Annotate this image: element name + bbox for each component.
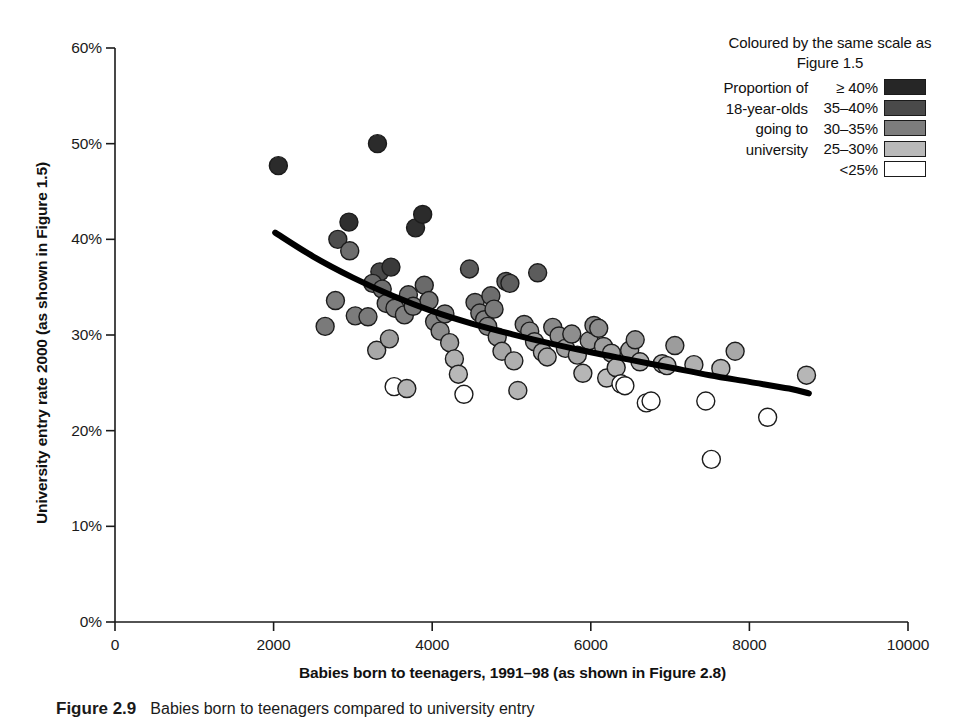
scatter-point: [382, 258, 400, 276]
legend-item-swatch: [884, 141, 926, 157]
scatter-point: [563, 325, 581, 343]
scatter-point: [529, 264, 547, 282]
y-axis-title: University entry rate 2000 (as shown in …: [33, 63, 51, 623]
scatter-point: [368, 135, 386, 153]
figure-caption-text: Babies born to teenagers compared to uni…: [136, 700, 534, 717]
scatter-point: [455, 385, 473, 403]
x-axis-tick-label: 0: [111, 636, 120, 654]
legend-item-label: 30–35%: [816, 120, 884, 137]
x-axis-ticks: [115, 622, 908, 631]
scatter-point: [340, 213, 358, 231]
scatter-point: [501, 274, 519, 292]
scatter-point: [460, 260, 478, 278]
y-axis-tick-label: 60%: [40, 39, 102, 57]
y-axis-ticks: [106, 48, 115, 622]
legend-item-label: ≥ 40%: [816, 79, 884, 96]
legend: Coloured by the same scale as Figure 1.5…: [700, 33, 958, 180]
legend-item: <25%: [816, 159, 926, 180]
legend-heading: Coloured by the same scale as Figure 1.5: [714, 33, 946, 73]
scatter-point: [398, 380, 416, 398]
scatter-point: [697, 392, 715, 410]
legend-caption: Proportion of 18-year-olds going to univ…: [700, 77, 808, 160]
scatter-point: [359, 308, 377, 326]
legend-scale: ≥ 40%35–40%30–35%25–30%<25%: [816, 77, 926, 180]
scatter-point: [316, 317, 334, 335]
scatter-point: [642, 392, 660, 410]
scatter-point: [759, 408, 777, 426]
legend-item-swatch: [884, 79, 926, 95]
scatter-point: [702, 450, 720, 468]
figure-caption-number: Figure 2.9: [56, 699, 136, 718]
scatter-point: [590, 319, 608, 337]
scatter-point: [538, 348, 556, 366]
scatter-point: [666, 337, 684, 355]
legend-item: ≥ 40%: [816, 77, 926, 98]
scatter-point: [380, 330, 398, 348]
scatter-point: [616, 377, 634, 395]
scatter-point: [485, 300, 503, 318]
x-axis-tick-label: 6000: [574, 636, 608, 654]
scatter-point: [326, 292, 344, 310]
scatter-point: [574, 364, 592, 382]
figure-caption: Figure 2.9Babies born to teenagers compa…: [56, 699, 936, 718]
x-axis-title: Babies born to teenagers, 1991–98 (as sh…: [115, 664, 910, 682]
x-axis-tick-label: 2000: [257, 636, 291, 654]
legend-item-label: 25–30%: [816, 140, 884, 157]
x-axis-tick-label: 10000: [887, 636, 930, 654]
scatter-point: [726, 342, 744, 360]
scatter-point: [509, 381, 527, 399]
scatter-point: [798, 366, 816, 384]
legend-body: Proportion of 18-year-olds going to univ…: [700, 77, 958, 180]
scatter-point: [341, 242, 359, 260]
scatter-points: [269, 135, 815, 469]
scatter-point: [441, 334, 459, 352]
legend-item: 30–35%: [816, 118, 926, 139]
legend-item-swatch: [884, 100, 926, 116]
x-axis-tick-label: 4000: [415, 636, 449, 654]
scatter-point: [505, 352, 523, 370]
scatter-point: [414, 205, 432, 223]
legend-item-swatch: [884, 120, 926, 136]
legend-item-label: <25%: [816, 161, 884, 178]
legend-item-swatch: [884, 161, 926, 177]
legend-item: 25–30%: [816, 139, 926, 160]
figure-root: 0%10%20%30%40%50%60% 0200040006000800010…: [0, 0, 960, 718]
legend-item: 35–40%: [816, 98, 926, 119]
legend-item-label: 35–40%: [816, 99, 884, 116]
scatter-point: [269, 157, 287, 175]
scatter-point: [626, 331, 644, 349]
x-axis-tick-label: 8000: [732, 636, 766, 654]
scatter-point: [449, 365, 467, 383]
